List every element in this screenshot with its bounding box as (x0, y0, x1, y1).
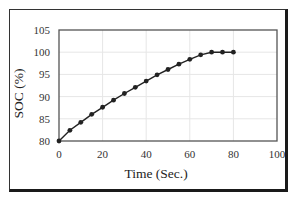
x-tick-label: 40 (141, 148, 153, 160)
x-tick-label: 0 (56, 148, 62, 160)
data-point-marker (220, 50, 225, 55)
data-point-marker (177, 62, 182, 67)
data-point-marker (166, 67, 171, 72)
data-point-marker (144, 79, 149, 84)
data-point-marker (57, 139, 62, 144)
data-point-marker (68, 128, 73, 133)
data-point-marker (89, 112, 94, 117)
data-point-marker (78, 120, 83, 125)
data-point-marker (155, 72, 160, 77)
y-tick-label: 85 (39, 113, 51, 125)
x-tick-label: 20 (97, 148, 109, 160)
gridlines (59, 30, 277, 141)
y-tick-label: 105 (34, 24, 51, 36)
x-tick-label: 80 (228, 148, 240, 160)
data-point-marker (231, 50, 236, 55)
y-tick-label: 95 (39, 68, 51, 80)
data-point-marker (133, 85, 138, 90)
x-tick-label: 100 (269, 148, 286, 160)
data-point-marker (187, 57, 192, 62)
y-axis-tick-labels: 80859095100105 (34, 24, 51, 147)
y-tick-label: 90 (39, 91, 51, 103)
x-axis-title: Time (Sec.) (124, 166, 187, 181)
x-tick-label: 60 (184, 148, 196, 160)
soc-line-chart: 80859095100105 020406080100 Time (Sec.) … (0, 0, 297, 203)
y-tick-label: 80 (39, 135, 51, 147)
x-axis-tick-labels: 020406080100 (56, 148, 286, 160)
data-point-marker (209, 50, 214, 55)
plot-area (59, 30, 277, 141)
y-tick-label: 100 (34, 46, 51, 58)
y-axis-title: SOC (%) (11, 69, 26, 119)
data-point-marker (198, 52, 203, 57)
data-point-marker (111, 98, 116, 103)
data-point-marker (100, 105, 105, 110)
data-point-marker (122, 91, 127, 96)
